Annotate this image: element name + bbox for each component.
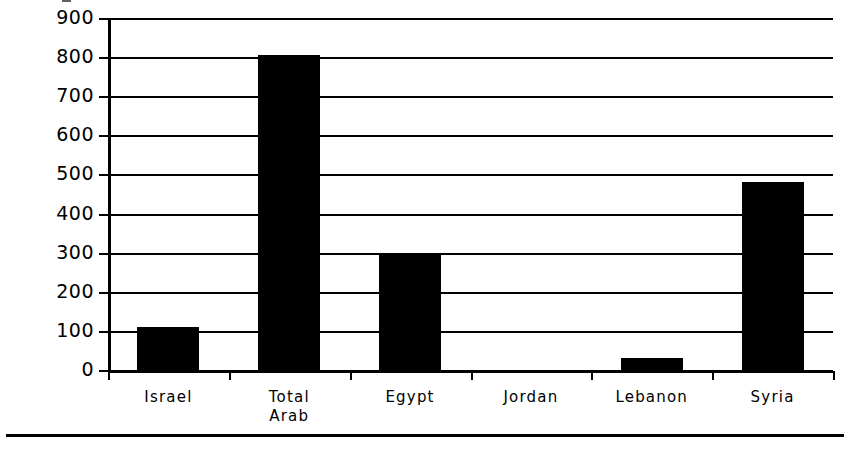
x-axis-category-label: Israel <box>108 388 229 407</box>
y-axis-tick <box>99 135 110 137</box>
y-axis-tick-labels: 0100200300400500600700800900 <box>0 0 94 450</box>
y-axis-tick <box>99 57 110 59</box>
x-axis-category-label: Lebanon <box>591 388 712 407</box>
footer-rule <box>6 434 844 437</box>
y-axis-tick <box>99 174 110 176</box>
gridline <box>108 214 833 216</box>
y-axis-tick-label: 400 <box>8 204 94 223</box>
gridline <box>108 253 833 255</box>
gridline <box>108 174 833 176</box>
x-axis-label-line: Arab <box>229 407 350 426</box>
x-axis-tick <box>471 371 473 380</box>
x-axis-label-line: Egypt <box>350 388 471 407</box>
gridline <box>108 18 833 20</box>
y-axis-tick-label: 100 <box>8 321 94 340</box>
gridline <box>108 331 833 333</box>
x-axis-label-line: Israel <box>108 388 229 407</box>
y-axis-tick <box>99 253 110 255</box>
gridline <box>108 57 833 59</box>
gridline <box>108 135 833 137</box>
bar <box>258 55 320 370</box>
x-axis-tick <box>712 371 714 380</box>
x-axis-label-line: Total <box>229 388 350 407</box>
x-axis-tick <box>350 371 352 380</box>
gridline <box>108 96 833 98</box>
x-axis-category-label: TotalArab <box>229 388 350 426</box>
x-axis-tick <box>591 371 593 380</box>
y-axis-tick-label: 700 <box>8 86 94 105</box>
y-axis-tick-label: 900 <box>8 8 94 27</box>
y-axis-tick-label: 600 <box>8 125 94 144</box>
plot-area <box>108 18 833 370</box>
y-axis-tick <box>99 18 110 20</box>
y-axis-tick-label: 500 <box>8 164 94 183</box>
x-axis-tick <box>833 371 835 380</box>
bar <box>742 182 804 370</box>
x-axis-tick <box>108 371 110 380</box>
x-axis-category-label: Jordan <box>471 388 592 407</box>
y-axis-tick <box>99 214 110 216</box>
y-axis-tick <box>99 331 110 333</box>
x-axis-label-line: Syria <box>712 388 833 407</box>
y-axis-tick <box>99 292 110 294</box>
bar-chart: 0100200300400500600700800900 IsraelTotal… <box>0 0 850 450</box>
bar <box>621 358 683 370</box>
x-axis-category-label: Egypt <box>350 388 471 407</box>
x-axis-category-label: Syria <box>712 388 833 407</box>
x-axis-label-line: Lebanon <box>591 388 712 407</box>
bar <box>379 253 441 370</box>
y-axis-tick <box>99 96 110 98</box>
y-axis-tick-label: 800 <box>8 47 94 66</box>
bar <box>137 327 199 370</box>
y-axis-tick-label: 200 <box>8 282 94 301</box>
x-axis-tick <box>229 371 231 380</box>
gridline <box>108 292 833 294</box>
y-axis-tick-label: 0 <box>8 360 94 379</box>
y-axis-tick-label: 300 <box>8 243 94 262</box>
x-axis-label-line: Jordan <box>471 388 592 407</box>
